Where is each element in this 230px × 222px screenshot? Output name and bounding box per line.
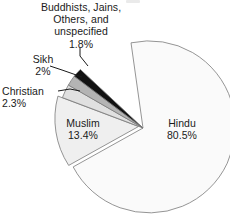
slice-label-others: Buddhists, Jains, Others, and unspecifie… (18, 1, 144, 50)
slice-label-others-line3: unspecified (54, 25, 108, 37)
slice-label-others-line1: Buddhists, Jains, (41, 1, 121, 13)
slice-value-muslim: 13.4% (52, 129, 114, 141)
slice-value-christian: 2.3% (2, 97, 82, 109)
slice-label-muslim-text: Muslim (66, 117, 100, 129)
slice-value-others: 1.8% (18, 38, 144, 50)
slice-label-sikh: Sikh 2% (12, 53, 74, 77)
pie-chart: Buddhists, Jains, Others, and unspecifie… (0, 0, 230, 222)
slice-label-hindu-text: Hindu (168, 117, 196, 129)
slice-label-others-line2: Others, and (53, 13, 108, 25)
slice-label-christian-text: Christian (2, 85, 44, 97)
slice-label-christian: Christian 2.3% (2, 85, 82, 109)
slice-label-hindu: Hindu 80.5% (152, 117, 212, 141)
slice-value-hindu: 80.5% (152, 129, 212, 141)
slice-label-muslim: Muslim 13.4% (52, 117, 114, 141)
slice-value-sikh: 2% (12, 65, 74, 77)
slice-label-sikh-text: Sikh (33, 53, 54, 65)
leader-line-others (80, 48, 88, 66)
